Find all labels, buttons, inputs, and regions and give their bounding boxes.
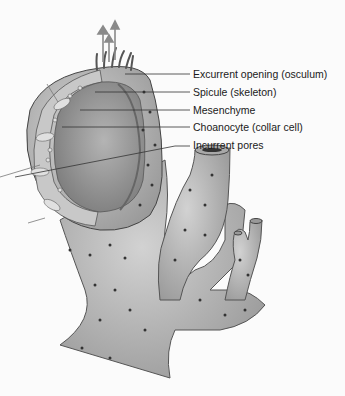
- sponge-illustration: [0, 0, 345, 396]
- small-osculum: [250, 219, 262, 224]
- arrow-3-head: [111, 21, 119, 29]
- spicule-pointer-3: [28, 218, 45, 223]
- label-osculum: Excurrent opening (osculum): [193, 68, 327, 80]
- label-incurrent-pores: Incurrent pores: [193, 139, 264, 151]
- sponge-diagram: Excurrent opening (osculum) Spicule (ske…: [0, 0, 345, 396]
- arrow-1-head: [98, 26, 108, 34]
- arrow-2-head: [105, 35, 113, 42]
- label-choanocyte: Choanocyte (collar cell): [193, 121, 303, 133]
- water-flow-arrows: [98, 21, 119, 62]
- tiny-osculum: [234, 231, 242, 235]
- label-spicule: Spicule (skeleton): [193, 86, 276, 98]
- label-mesenchyme: Mesenchyme: [193, 104, 255, 116]
